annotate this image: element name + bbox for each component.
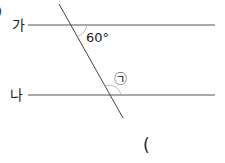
line-label-top: 가 xyxy=(12,18,25,32)
transversal-line xyxy=(59,4,123,118)
angle-label-60: 60° xyxy=(86,31,109,44)
line-label-bottom: 나 xyxy=(10,88,23,102)
answer-parenthesis: ( xyxy=(143,137,150,154)
diagram-canvas xyxy=(0,0,225,163)
edge-mark: ) xyxy=(0,5,2,18)
angle-label-unknown: ㉠ xyxy=(114,72,127,85)
